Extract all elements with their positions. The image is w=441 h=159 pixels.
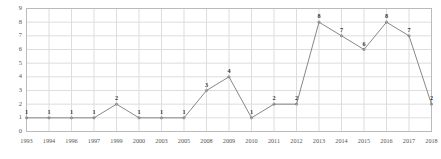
point-label-2015: 6 bbox=[356, 41, 372, 47]
x-axis-tick-2014: 2014 bbox=[330, 138, 354, 144]
x-axis-tick-1993: 1993 bbox=[15, 138, 39, 144]
point-label-2012: 2 bbox=[289, 95, 305, 101]
point-label-1993: 1 bbox=[19, 109, 35, 115]
point-label-1997: 1 bbox=[86, 109, 102, 115]
point-label-2008: 3 bbox=[199, 82, 215, 88]
y-axis-tick-0: 0 bbox=[8, 128, 22, 135]
point-label-1994: 1 bbox=[41, 109, 57, 115]
y-axis-tick-7: 7 bbox=[8, 32, 22, 39]
x-axis-tick-2017: 2017 bbox=[397, 138, 421, 144]
y-axis-tick-1: 1 bbox=[8, 114, 22, 121]
y-axis-tick-8: 8 bbox=[8, 19, 22, 26]
point-label-2018: 2 bbox=[424, 95, 440, 101]
point-label-2010: 1 bbox=[244, 109, 260, 115]
x-axis-tick-2009: 2009 bbox=[217, 138, 241, 144]
point-label-2005: 1 bbox=[176, 109, 192, 115]
y-axis-tick-9: 9 bbox=[8, 5, 22, 12]
y-axis-tick-4: 4 bbox=[8, 73, 22, 80]
chart-plot-area bbox=[0, 0, 441, 159]
x-axis-tick-2008: 2008 bbox=[195, 138, 219, 144]
x-axis-tick-2010: 2010 bbox=[240, 138, 264, 144]
x-axis-tick-2011: 2011 bbox=[262, 138, 286, 144]
point-label-2011: 2 bbox=[266, 95, 282, 101]
point-label-2013: 8 bbox=[311, 13, 327, 19]
y-axis-tick-2: 2 bbox=[8, 101, 22, 108]
x-axis-tick-2013: 2013 bbox=[307, 138, 331, 144]
x-axis-tick-1996: 1996 bbox=[60, 138, 84, 144]
x-axis-tick-1997: 1997 bbox=[82, 138, 106, 144]
y-axis-tick-3: 3 bbox=[8, 87, 22, 94]
point-label-2000: 1 bbox=[131, 109, 147, 115]
point-label-2009: 4 bbox=[221, 68, 237, 74]
x-axis-tick-1999: 1999 bbox=[105, 138, 129, 144]
x-axis-tick-2016: 2016 bbox=[375, 138, 399, 144]
x-axis-tick-2012: 2012 bbox=[285, 138, 309, 144]
x-axis-tick-2003: 2003 bbox=[150, 138, 174, 144]
x-axis-tick-2018: 2018 bbox=[420, 138, 441, 144]
y-axis-tick-5: 5 bbox=[8, 60, 22, 67]
point-label-1999: 2 bbox=[109, 95, 125, 101]
x-axis-tick-2015: 2015 bbox=[352, 138, 376, 144]
point-label-1996: 1 bbox=[64, 109, 80, 115]
x-axis-tick-2005: 2005 bbox=[172, 138, 196, 144]
x-axis-tick-1994: 1994 bbox=[37, 138, 61, 144]
point-label-2016: 8 bbox=[379, 13, 395, 19]
point-label-2017: 7 bbox=[401, 27, 417, 33]
x-axis-tick-2000: 2000 bbox=[127, 138, 151, 144]
line-chart: 0123456789 19931994199619971999200020032… bbox=[0, 0, 441, 159]
point-label-2014: 7 bbox=[334, 27, 350, 33]
y-axis-tick-6: 6 bbox=[8, 46, 22, 53]
point-label-2003: 1 bbox=[154, 109, 170, 115]
